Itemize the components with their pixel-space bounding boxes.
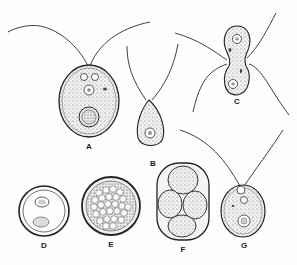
- cell-c: [175, 13, 289, 115]
- flagellum-b-right: [152, 44, 178, 100]
- papilla: [237, 186, 245, 194]
- cell-a: [8, 22, 150, 137]
- daughter-cell: [183, 191, 207, 219]
- flagellum-a-right: [90, 22, 150, 66]
- cell-f: [157, 163, 209, 240]
- flagellum-b-left: [127, 46, 146, 100]
- cyst-wall-d: [19, 186, 69, 236]
- flagellum-c: [247, 13, 276, 58]
- contractile-vacuole: [81, 74, 88, 81]
- label-d: D: [41, 241, 47, 250]
- cell-e: [82, 177, 140, 235]
- flagellum-c: [249, 64, 289, 115]
- label-f: F: [181, 245, 186, 254]
- label-c: C: [234, 97, 240, 106]
- label-b: B: [150, 159, 156, 168]
- flagellum-c: [193, 64, 227, 112]
- cell-body-b: [137, 100, 163, 146]
- flagellum-a-left: [8, 25, 88, 66]
- daughter-cell: [168, 166, 198, 194]
- cell-b: [127, 44, 178, 146]
- flagellum-c: [175, 33, 227, 60]
- cell-g: [221, 185, 265, 237]
- label-e: E: [108, 240, 113, 249]
- eyespot: [103, 87, 107, 90]
- label-a: A: [86, 142, 92, 151]
- label-g: G: [241, 241, 247, 250]
- daughter-cell: [158, 190, 182, 218]
- flagellum-g-right: [244, 130, 283, 186]
- contractile-vacuole: [92, 74, 99, 81]
- algae-figure: A B C D E F G: [0, 0, 297, 265]
- daughter-cell: [168, 215, 196, 237]
- cell-d: [19, 186, 69, 236]
